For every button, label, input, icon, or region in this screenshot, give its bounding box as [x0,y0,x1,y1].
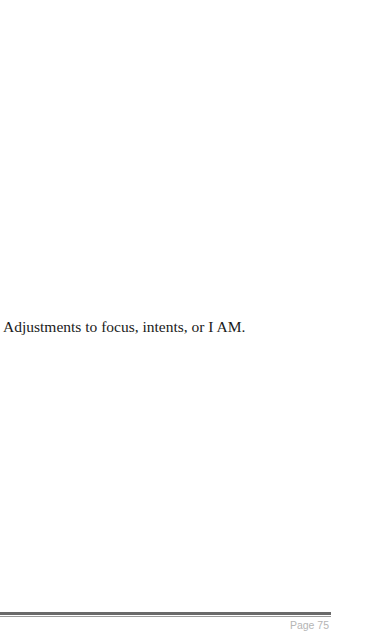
body-paragraph: Adjustments to focus, intents, or I AM. [3,318,245,336]
footer-divider [0,612,331,615]
page-number: Page 75 [290,619,329,631]
footer-divider-thin [0,616,331,617]
